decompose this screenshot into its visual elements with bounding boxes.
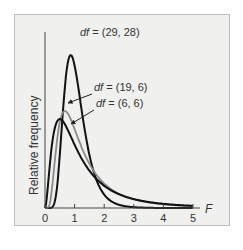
annotation-label: df = (6, 6): [96, 97, 143, 109]
y-axis-label: Relative frequency: [27, 96, 41, 195]
x-tick-label: 0: [42, 212, 48, 224]
curve-2: [45, 119, 193, 208]
f-distribution-chart: 012345 F Relative frequency df = (29, 28…: [0, 0, 243, 250]
x-tick-label: 1: [72, 212, 78, 224]
annotation-label: df = (29, 28): [80, 26, 140, 38]
annotations: df = (29, 28)df = (19, 6)df = (6, 6): [68, 26, 148, 124]
x-tick-label: 4: [160, 212, 166, 224]
curves: [45, 55, 193, 208]
x-tick-label: 5: [190, 212, 196, 224]
x-axis-label: F: [205, 202, 213, 216]
annotation-label: df = (19, 6): [94, 81, 148, 93]
x-tick-label: 2: [101, 212, 107, 224]
x-tick-label: 3: [131, 212, 137, 224]
curve-0: [45, 55, 193, 208]
